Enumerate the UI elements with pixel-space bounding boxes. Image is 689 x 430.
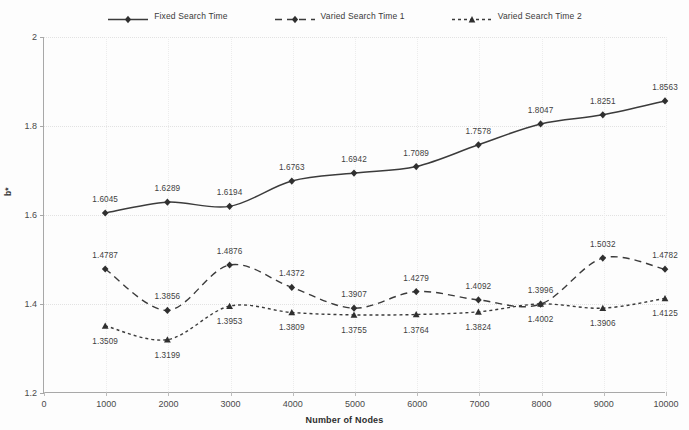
- x-tick-label: 8000: [532, 399, 552, 409]
- gridline-vertical: [168, 37, 169, 392]
- legend-swatch-varied-search-time-1: [274, 11, 316, 22]
- chart-legend: Fixed Search Time Varied Search Time 1 V…: [0, 6, 689, 26]
- x-tick-label: 5000: [345, 399, 365, 409]
- data-point-label: 1.4279: [403, 273, 429, 282]
- legend-label-2: Varied Search Time 2: [498, 11, 582, 21]
- y-tick-label: 1.4: [24, 299, 37, 309]
- x-tick-mark: [417, 392, 418, 396]
- x-tick-mark: [44, 392, 45, 396]
- legend-item-2[interactable]: Varied Search Time 2: [451, 11, 582, 22]
- legend-label-0: Fixed Search Time: [154, 11, 227, 21]
- data-point-label: 1.4092: [466, 281, 492, 290]
- x-tick-mark: [666, 392, 667, 396]
- data-point-label: 1.4002: [528, 314, 554, 323]
- legend-item-0[interactable]: Fixed Search Time: [107, 11, 227, 22]
- y-tick-mark: [40, 126, 44, 127]
- x-tick-mark: [355, 392, 356, 396]
- y-tick-label: 1.8: [24, 121, 37, 131]
- data-point-label: 1.3809: [279, 323, 305, 332]
- y-tick-mark: [40, 37, 44, 38]
- x-tick-label: 3000: [221, 399, 241, 409]
- gridline-vertical: [355, 37, 356, 392]
- data-point-label: 1.5032: [590, 240, 616, 249]
- data-point-label: 1.4372: [279, 269, 305, 278]
- data-point-label: 1.4787: [92, 250, 118, 259]
- y-tick-mark: [40, 304, 44, 305]
- data-point-label: 1.3996: [528, 286, 554, 295]
- legend-swatch-varied-search-time-2: [451, 11, 493, 22]
- data-point-label: 1.3907: [341, 290, 367, 299]
- x-tick-mark: [168, 392, 169, 396]
- gridline-vertical: [604, 37, 605, 392]
- gridline-vertical: [417, 37, 418, 392]
- data-point-label: 1.8047: [528, 105, 554, 114]
- data-point-label: 1.6194: [217, 188, 243, 197]
- x-tick-mark: [293, 392, 294, 396]
- data-point-label: 1.3953: [217, 317, 243, 326]
- data-point-label: 1.3764: [403, 325, 429, 334]
- data-point-label: 1.4782: [652, 251, 678, 260]
- line-chart: Fixed Search Time Varied Search Time 1 V…: [0, 0, 689, 430]
- gridline-vertical: [293, 37, 294, 392]
- y-tick-mark: [40, 215, 44, 216]
- legend-item-1[interactable]: Varied Search Time 1: [274, 11, 405, 22]
- x-axis-title: Number of Nodes: [0, 415, 689, 425]
- x-tick-label: 0: [41, 399, 46, 409]
- x-tick-label: 2000: [158, 399, 178, 409]
- x-tick-label: 4000: [283, 399, 303, 409]
- x-tick-label: 1000: [96, 399, 116, 409]
- data-point-label: 1.6045: [92, 194, 118, 203]
- x-tick-mark: [604, 392, 605, 396]
- data-point-label: 1.3856: [155, 292, 181, 301]
- x-tick-mark: [479, 392, 480, 396]
- y-tick-label: 1.2: [24, 388, 37, 398]
- x-tick-label: 10000: [653, 399, 678, 409]
- gridline-vertical: [542, 37, 543, 392]
- data-point-label: 1.3199: [155, 350, 181, 359]
- y-tick-label: 2: [32, 32, 37, 42]
- data-point-label: 1.3824: [466, 322, 492, 331]
- legend-swatch-fixed-search-time: [107, 11, 149, 22]
- legend-label-1: Varied Search Time 1: [321, 11, 405, 21]
- data-point-label: 1.8563: [652, 82, 678, 91]
- data-point-label: 1.8251: [590, 96, 616, 105]
- gridline-vertical: [479, 37, 480, 392]
- y-axis-title: b*: [3, 188, 13, 197]
- data-point-label: 1.7578: [466, 126, 492, 135]
- x-tick-mark: [542, 392, 543, 396]
- plot-area: 1.21.41.61.82010002000300040005000600070…: [43, 37, 665, 393]
- x-tick-mark: [106, 392, 107, 396]
- x-tick-label: 6000: [407, 399, 427, 409]
- data-point-label: 1.3509: [92, 336, 118, 345]
- gridline-vertical: [231, 37, 232, 392]
- data-point-label: 1.3755: [341, 325, 367, 334]
- data-point-label: 1.4125: [652, 309, 678, 318]
- data-point-label: 1.3906: [590, 319, 616, 328]
- data-point-label: 1.6942: [341, 155, 367, 164]
- x-tick-mark: [231, 392, 232, 396]
- x-tick-label: 7000: [469, 399, 489, 409]
- data-point-label: 1.4876: [217, 247, 243, 256]
- data-point-label: 1.6763: [279, 163, 305, 172]
- x-tick-label: 9000: [594, 399, 614, 409]
- data-point-label: 1.7089: [403, 148, 429, 157]
- y-tick-label: 1.6: [24, 210, 37, 220]
- data-point-label: 1.6289: [155, 184, 181, 193]
